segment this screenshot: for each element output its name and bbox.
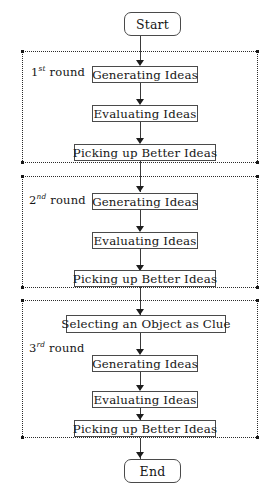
- round-2-suffix: nd: [37, 192, 47, 201]
- round-2-step-evaluating-ideas: Evaluating Ideas: [92, 232, 198, 249]
- step-label: Evaluating Ideas: [94, 107, 197, 121]
- start-label: Start: [136, 17, 169, 32]
- round-1-word: round: [50, 65, 86, 79]
- corner-marker-icon: [21, 175, 24, 178]
- corner-marker-icon: [256, 436, 259, 439]
- flowchart-canvas: Start 1st round Generating Ideas Evaluat…: [0, 0, 273, 494]
- start-terminator: Start: [124, 12, 181, 36]
- round-1-label: 1st round: [31, 65, 85, 79]
- corner-marker-icon: [256, 175, 259, 178]
- arrowhead-round3-to-end: [136, 452, 144, 458]
- step-label: Evaluating Ideas: [94, 234, 197, 248]
- corner-marker-icon: [256, 50, 259, 53]
- round-3-step-evaluating-ideas: Evaluating Ideas: [92, 391, 198, 408]
- round-3-ordinal: 3: [29, 341, 37, 355]
- step-label: Generating Ideas: [92, 357, 198, 371]
- corner-marker-icon: [256, 286, 259, 289]
- corner-marker-icon: [21, 299, 24, 302]
- round-3-step-generating-ideas: Generating Ideas: [92, 355, 198, 372]
- round-1-ordinal: 1: [31, 65, 39, 79]
- step-label: Generating Ideas: [92, 68, 198, 82]
- step-label: Evaluating Ideas: [94, 393, 197, 407]
- round-3-suffix: rd: [37, 340, 46, 349]
- round-1-step-generating-ideas: Generating Ideas: [92, 66, 198, 83]
- step-label: Generating Ideas: [92, 195, 198, 209]
- round-2-ordinal: 2: [29, 193, 37, 207]
- round-2-label: 2nd round: [29, 193, 86, 207]
- round-3-step-picking-up-better-ideas: Picking up Better Ideas: [74, 420, 216, 437]
- end-terminator: End: [124, 459, 181, 483]
- round-1-suffix: st: [39, 64, 46, 73]
- round-2-step-generating-ideas: Generating Ideas: [92, 193, 198, 210]
- step-label: Picking up Better Ideas: [73, 146, 217, 160]
- corner-marker-icon: [256, 299, 259, 302]
- end-label: End: [140, 464, 166, 479]
- step-selecting-an-object-as-clue: Selecting an Object as Clue: [66, 315, 226, 333]
- round-3-word: round: [49, 341, 85, 355]
- corner-marker-icon: [21, 161, 24, 164]
- corner-marker-icon: [21, 436, 24, 439]
- background-bleed-text: [14, 1, 158, 12]
- step-label: Picking up Better Ideas: [73, 422, 217, 436]
- round-1-step-evaluating-ideas: Evaluating Ideas: [92, 105, 198, 122]
- step-label: Selecting an Object as Clue: [61, 317, 230, 331]
- corner-marker-icon: [21, 50, 24, 53]
- step-label: Picking up Better Ideas: [73, 272, 217, 286]
- corner-marker-icon: [256, 161, 259, 164]
- round-2-step-picking-up-better-ideas: Picking up Better Ideas: [74, 270, 216, 287]
- round-3-label: 3rd round: [29, 341, 85, 355]
- round-2-word: round: [50, 193, 86, 207]
- round-1-step-picking-up-better-ideas: Picking up Better Ideas: [74, 144, 216, 161]
- corner-marker-icon: [21, 286, 24, 289]
